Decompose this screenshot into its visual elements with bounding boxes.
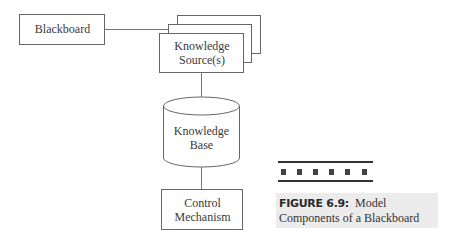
knowledge-sources-label-line2: Source(s) — [160, 53, 244, 67]
control-mechanism-label-line2: Mechanism — [162, 210, 243, 224]
knowledge-sources-label: Knowledge Source(s) — [160, 39, 244, 67]
figure-title-part2: Components of a Blackboard — [279, 211, 438, 226]
control-mechanism-label-line1: Control — [162, 196, 243, 210]
knowledge-base-label-line2: Base — [163, 138, 240, 152]
control-mechanism-label: Control Mechanism — [162, 196, 243, 224]
figure-decoration-bar — [278, 161, 373, 182]
blackboard-label: Blackboard — [20, 22, 105, 36]
knowledge-sources-label-line1: Knowledge — [160, 39, 244, 53]
figure-caption: FIGURE 6.9: Model Components of a Blackb… — [276, 193, 438, 228]
knowledge-base-label: Knowledge Base — [163, 124, 240, 152]
knowledge-base-label-line1: Knowledge — [163, 124, 240, 138]
figure-number: FIGURE 6.9: — [279, 197, 349, 210]
figure-title-part1: Model — [355, 196, 386, 210]
